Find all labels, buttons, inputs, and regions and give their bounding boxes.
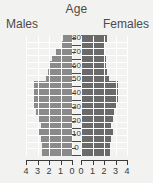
age-tick-label-0: 0 xyxy=(72,144,81,152)
value-tick-label-2: 2 xyxy=(46,166,51,177)
legend-label-males: Males xyxy=(6,17,38,31)
value-tick-label-0: 0 xyxy=(78,166,83,177)
gridline-vertical xyxy=(127,36,128,156)
females-plot-panel xyxy=(81,36,127,156)
value-tick-label-3: 3 xyxy=(113,166,118,177)
females-value-axis-labels: 01234 xyxy=(81,166,127,178)
males-value-axis xyxy=(26,160,72,165)
value-tick-label-1: 1 xyxy=(90,166,95,177)
value-tick-4 xyxy=(127,160,128,165)
value-tick-4 xyxy=(26,160,27,165)
value-tick-2 xyxy=(49,160,50,165)
age-tick-label-70: 70 xyxy=(72,48,81,56)
females-bar-group xyxy=(81,36,127,156)
value-tick-0 xyxy=(81,160,82,165)
age-tick-label-30: 30 xyxy=(72,103,81,111)
bar-85+ xyxy=(63,35,72,43)
bar-85+ xyxy=(81,35,107,43)
legend-label-females: Females xyxy=(103,17,149,31)
age-tick-label-10: 10 xyxy=(72,130,81,138)
age-tick-label-50: 50 xyxy=(72,75,81,83)
age-tick-label-20: 20 xyxy=(72,117,81,125)
value-tick-3 xyxy=(116,160,117,165)
value-tick-0 xyxy=(72,160,73,165)
age-tick-label-80: 80 xyxy=(72,34,81,42)
population-pyramid-chart: Age Males Females 01020304050607080 4321… xyxy=(0,0,153,183)
value-tick-1 xyxy=(93,160,94,165)
value-tick-label-4: 4 xyxy=(124,166,129,177)
value-tick-label-1: 1 xyxy=(58,166,63,177)
females-value-axis xyxy=(81,160,127,165)
value-tick-label-0: 0 xyxy=(69,166,74,177)
age-axis-labels: 01020304050607080 xyxy=(72,36,81,156)
age-tick-label-40: 40 xyxy=(72,89,81,97)
males-plot-panel xyxy=(26,36,72,156)
males-value-axis-labels: 43210 xyxy=(26,166,72,178)
value-tick-1 xyxy=(61,160,62,165)
value-tick-2 xyxy=(104,160,105,165)
chart-title: Age xyxy=(0,2,153,16)
value-tick-label-3: 3 xyxy=(35,166,40,177)
age-tick-label-60: 60 xyxy=(72,62,81,70)
males-bar-group xyxy=(26,36,72,156)
value-tick-label-2: 2 xyxy=(101,166,106,177)
value-tick-label-4: 4 xyxy=(23,166,28,177)
value-tick-3 xyxy=(38,160,39,165)
